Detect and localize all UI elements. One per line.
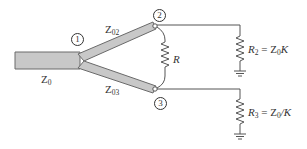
label-z02: Z02: [105, 24, 119, 37]
port-3-label: 3: [154, 97, 167, 110]
input-line-z0: [15, 52, 80, 69]
load-resistor-r3: [236, 89, 244, 134]
label-z03: Z03: [105, 84, 119, 97]
label-r: R: [173, 54, 180, 65]
port-2-label: 2: [153, 9, 166, 22]
ground-icon: [234, 134, 246, 139]
isolation-resistor: [157, 27, 169, 88]
load-resistor-r2: [236, 25, 244, 71]
label-r2: R2 = Z0K: [248, 44, 288, 57]
port-2-terminal: [153, 24, 157, 28]
label-z0: Z0: [41, 74, 51, 87]
label-r3: R3 = Z0/K: [248, 107, 291, 120]
ground-icon: [234, 71, 246, 76]
port-1-label: 1: [71, 33, 84, 46]
port-3-terminal: [153, 87, 157, 91]
